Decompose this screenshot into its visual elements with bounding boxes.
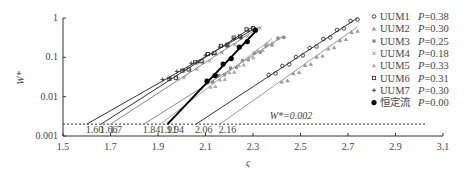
series-UUM4 [111, 27, 262, 125]
legend-item: UUM1P=0.38 [372, 11, 449, 22]
y-tick-label: 1 [53, 12, 58, 23]
x-tick-label: 1.7 [104, 141, 117, 152]
x-tick-label: 2.1 [199, 141, 212, 152]
legend-p-value: P=0.00 [417, 97, 449, 108]
fit-line [101, 27, 253, 124]
x-axis-label: ς [246, 157, 251, 168]
x-tick-label: 2.3 [247, 141, 260, 152]
series-恒定流 [168, 28, 258, 125]
legend-item: UUM4P=0.18 [372, 48, 448, 59]
legend-p-value: P=0.25 [417, 36, 449, 47]
legend-p-value: P=0.31 [417, 73, 449, 84]
legend-item: UUM5P=0.33 [372, 60, 449, 71]
x-tick-label: 3.1 [437, 141, 450, 152]
intercept-label: 2.16 [219, 124, 237, 135]
series-UUM1 [196, 18, 359, 124]
legend-label: UUM1 [380, 11, 410, 22]
fit-line [87, 28, 256, 124]
legend-label: 恒定流 [380, 96, 411, 108]
y-tick-label: 0.1 [46, 51, 59, 62]
legend-item: UUM3P=0.25 [372, 36, 448, 47]
legend-item: UUM2P=0.30 [372, 23, 449, 34]
plot-area: W*=0.0021.601.661.71.841.911.942.062.16 [63, 18, 425, 135]
legend-label: UUM2 [380, 23, 410, 34]
chart: W*=0.0021.601.661.71.841.911.942.062.16 … [0, 0, 471, 178]
x-tick-label: 2.7 [342, 141, 355, 152]
legend-p-value: P=0.30 [417, 85, 449, 96]
legend-label: UUM4 [380, 48, 411, 59]
legend-item: UUM6P=0.31 [372, 73, 448, 84]
threshold-label: W*=0.002 [270, 110, 313, 121]
y-tick-label: 0.001 [36, 130, 59, 141]
legend-p-value: P=0.18 [417, 48, 449, 59]
x-tick-label: 2.9 [389, 141, 402, 152]
x-tick-label: 1.9 [152, 141, 165, 152]
legend-item: UUM7P=0.30 [372, 85, 449, 96]
legend-p-value: P=0.30 [417, 23, 449, 34]
legend-p-value: P=0.33 [417, 60, 449, 71]
fit-line [111, 27, 261, 124]
intercept-label: 1.7 [110, 124, 123, 135]
legend-label: UUM6 [380, 73, 410, 84]
legend-label: UUM5 [380, 60, 410, 71]
fit-line [196, 18, 358, 124]
x-tick-label: 1.5 [57, 141, 70, 152]
legend-label: UUM3 [380, 36, 410, 47]
intercept-label: 1.94 [167, 124, 185, 135]
x-tick-label: 2.5 [294, 141, 307, 152]
intercept-label: 2.06 [195, 124, 213, 135]
series-UUM5 [160, 39, 274, 125]
series-UUM7 [87, 28, 258, 124]
legend: UUM1P=0.38UUM2P=0.30UUM3P=0.25UUM4P=0.18… [371, 11, 448, 108]
y-tick-label: 0.01 [41, 91, 59, 102]
legend-p-value: P=0.38 [417, 11, 449, 22]
legend-item: 恒定流P=0.00 [371, 96, 448, 108]
legend-label: UUM7 [380, 85, 410, 96]
y-axis-label: W* [15, 71, 26, 84]
